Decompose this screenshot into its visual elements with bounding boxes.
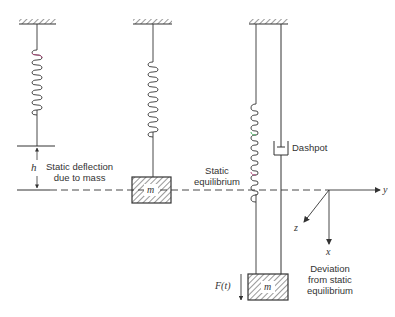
static-deflection-label-line1: Static deflection — [46, 161, 113, 172]
coordinate-axes — [304, 190, 380, 244]
deviation-caption-line2: from static — [307, 274, 353, 285]
middle-ceiling-support — [133, 19, 172, 24]
static-deflection-label-line2: due to mass — [46, 172, 113, 183]
right-spring — [251, 24, 258, 274]
middle-mass-label: m — [147, 184, 154, 195]
left-ceiling-support — [19, 19, 56, 24]
force-label: F(t) — [215, 280, 231, 291]
x-axis-label: x — [326, 246, 330, 257]
left-spring — [32, 24, 42, 146]
right-mass-label: m — [264, 281, 271, 292]
spring-mass-damper-figure: h Static deflection due to mass m Static… — [0, 0, 395, 317]
z-axis-arrow — [304, 190, 329, 222]
deviation-caption-line1: Deviation — [307, 263, 353, 274]
static-deflection-label: Static deflection due to mass — [46, 161, 113, 183]
deviation-caption: Deviation from static equilibrium — [307, 263, 353, 296]
dashpot-label: Dashpot — [292, 142, 327, 153]
middle-spring — [148, 24, 158, 177]
deviation-caption-line3: equilibrium — [307, 285, 353, 296]
dashpot — [274, 24, 288, 274]
static-equilibrium-label: Static equilibrium — [194, 165, 240, 187]
right-ceiling-support — [249, 19, 288, 24]
z-axis-label: z — [294, 222, 298, 233]
deflection-symbol-h: h — [31, 162, 37, 173]
static-equilibrium-label-line2: equilibrium — [194, 176, 240, 187]
static-equilibrium-label-line1: Static — [194, 165, 240, 176]
y-axis-label: y — [383, 184, 387, 195]
